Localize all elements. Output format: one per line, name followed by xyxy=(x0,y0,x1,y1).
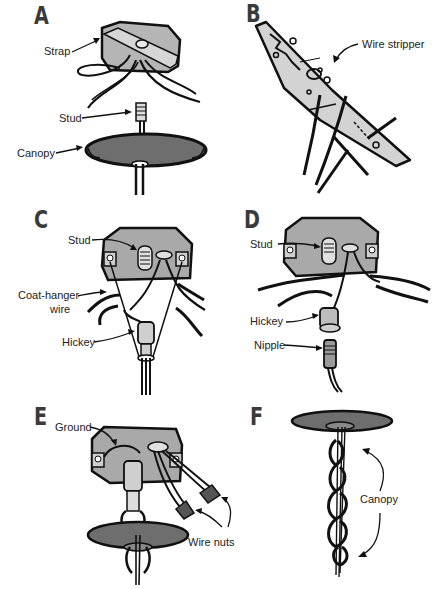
panel-d: D Stud Hickey Nipple xyxy=(220,200,441,395)
panel-e: E Ground Wire nuts xyxy=(0,395,240,589)
panel-f: F Canopy xyxy=(240,395,441,589)
label-stud: Stud xyxy=(250,238,273,250)
label-nipple: Nipple xyxy=(254,339,285,351)
wire-stripper-illustration xyxy=(220,0,441,195)
label-wire-nuts: Wire nuts xyxy=(188,536,234,548)
ground-wire-nuts-illustration xyxy=(0,395,240,589)
panel-b: B Wire stripper xyxy=(220,0,441,195)
label-canopy: Canopy xyxy=(360,493,398,505)
label-hickey: Hickey xyxy=(250,315,283,327)
label-hickey: Hickey xyxy=(62,336,95,348)
label-ground: Ground xyxy=(55,421,92,433)
label-stud: Stud xyxy=(68,234,91,246)
label-wire: wire xyxy=(50,303,70,315)
canopy-wire-twist-illustration xyxy=(240,395,441,589)
panel-a: A Strap Stud Canopy xyxy=(0,0,220,195)
label-stud: Stud xyxy=(59,112,82,124)
panel-c: C Stud Coa xyxy=(0,200,220,395)
strap-box-stud-canopy-illustration xyxy=(0,0,220,195)
label-wire-stripper: Wire stripper xyxy=(362,38,424,50)
hickey-nipple-illustration xyxy=(220,200,441,395)
label-strap: Strap xyxy=(44,45,70,57)
label-canopy: Canopy xyxy=(17,147,55,159)
label-coat-hanger: Coat-hanger xyxy=(18,289,79,301)
